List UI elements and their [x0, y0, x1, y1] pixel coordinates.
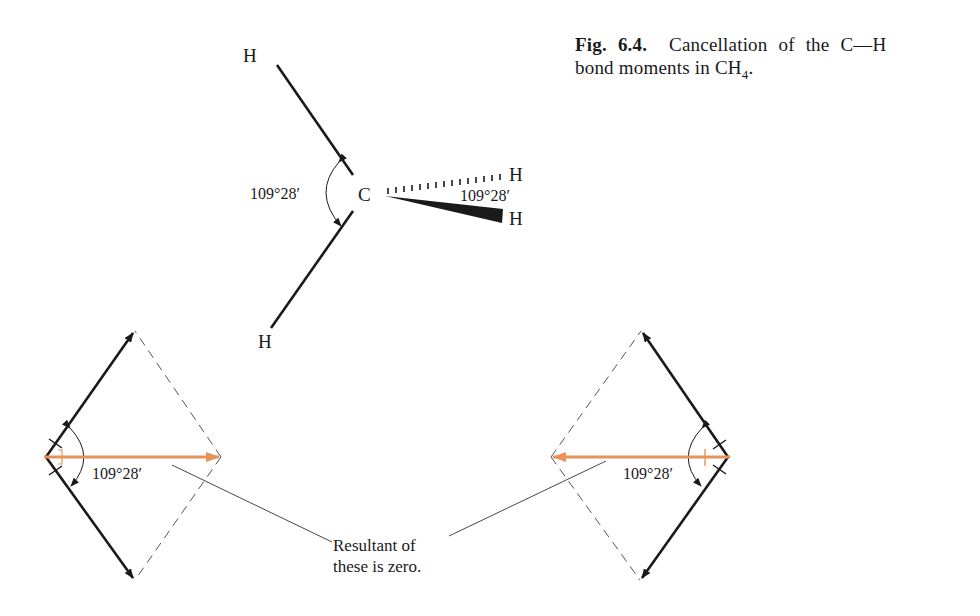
angle-label-right: 109°28′	[460, 187, 510, 204]
tick-mark	[713, 465, 726, 474]
right-vector-diagram: 109°28′	[551, 331, 730, 580]
dashed-side-upper	[135, 331, 221, 457]
hydrogen-top-left-label: H	[243, 45, 257, 66]
caption-line-1: Fig. 6.4. Cancellation of the C—H	[575, 33, 975, 56]
caption-suffix: .	[748, 57, 753, 78]
dashed-side-lower	[135, 457, 221, 580]
angle-label: 109°28′	[623, 465, 673, 482]
angle-label: 109°28′	[92, 465, 142, 482]
tick-mark	[713, 440, 726, 449]
figure-caption: Fig. 6.4. Cancellation of the C—H bond m…	[575, 33, 975, 86]
annotation-line1: Resultant of	[333, 536, 416, 555]
caption-line-2: bond moments in CH4.	[575, 56, 975, 86]
carbon-label: C	[358, 184, 371, 205]
caption-text-1: Cancellation of the C—H	[669, 34, 886, 55]
hydrogen-bottom-left-label: H	[258, 331, 272, 352]
annotation-line2: these is zero.	[333, 557, 421, 576]
bond-top-left	[277, 65, 353, 175]
tick-mark	[49, 439, 62, 448]
ch4-bond-moment-diagram: H H 109°28′ C H 109°28′	[0, 0, 980, 616]
bond-vector-upper	[643, 333, 728, 457]
left-vector-diagram: 109°28′	[44, 331, 221, 580]
tick-mark	[49, 466, 62, 475]
methane-structure: H H 109°28′ C H 109°28′	[243, 45, 523, 352]
bond-bottom-left	[271, 211, 353, 328]
leader-line-right	[449, 461, 606, 536]
hydrogen-dashed-label: H	[509, 164, 523, 185]
angle-label-left: 109°28′	[250, 185, 300, 202]
figure-number: Fig. 6.4.	[575, 34, 647, 55]
bond-vector-upper	[46, 333, 133, 457]
leader-line-left	[172, 465, 332, 542]
dashed-side-upper	[551, 331, 641, 457]
angle-arc-left	[326, 162, 341, 226]
hydrogen-wedge-label: H	[509, 208, 523, 229]
caption-text-2: bond moments in CH	[575, 57, 742, 78]
